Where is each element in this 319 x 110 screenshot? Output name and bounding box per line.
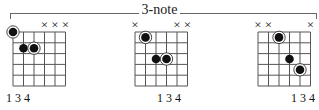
- finger-dot-icon: [9, 28, 18, 37]
- chord-diagram-3: ×××1 3 4: [245, 18, 319, 110]
- muted-string-icon: ×: [173, 18, 180, 32]
- muted-string-icon: ×: [41, 18, 48, 32]
- finger-dot-icon: [141, 33, 150, 42]
- muted-string-icon: ×: [307, 18, 314, 32]
- muted-string-icon: ×: [131, 18, 138, 32]
- muted-string-icon: ×: [62, 18, 69, 32]
- finger-dot-icon: [30, 44, 39, 53]
- muted-string-icon: ×: [254, 18, 261, 32]
- chord-diagram-2: ×××1 3 4: [122, 18, 202, 110]
- muted-string-icon: ×: [184, 18, 191, 32]
- finger-numbers: 1 3 4: [157, 92, 181, 104]
- group-title: 3-note: [0, 2, 319, 18]
- finger-dot-icon: [275, 33, 284, 42]
- muted-string-icon: ×: [265, 18, 272, 32]
- finger-dot-icon: [152, 55, 161, 64]
- finger-dot-icon: [296, 66, 305, 75]
- finger-numbers: 1 3 4: [291, 92, 315, 104]
- chord-diagram-1: ×××1 3 4: [0, 18, 80, 110]
- group-title-label: 3-note: [139, 2, 181, 17]
- finger-dot-icon: [285, 55, 294, 64]
- finger-dot-icon: [19, 44, 28, 53]
- chord-diagram-figure: 3-note ×××1 3 4 ×××1 3 4 ×××1 3 4: [0, 0, 319, 110]
- finger-dot-icon: [162, 55, 171, 64]
- muted-string-icon: ×: [51, 18, 58, 32]
- finger-numbers: 1 3 4: [6, 92, 30, 104]
